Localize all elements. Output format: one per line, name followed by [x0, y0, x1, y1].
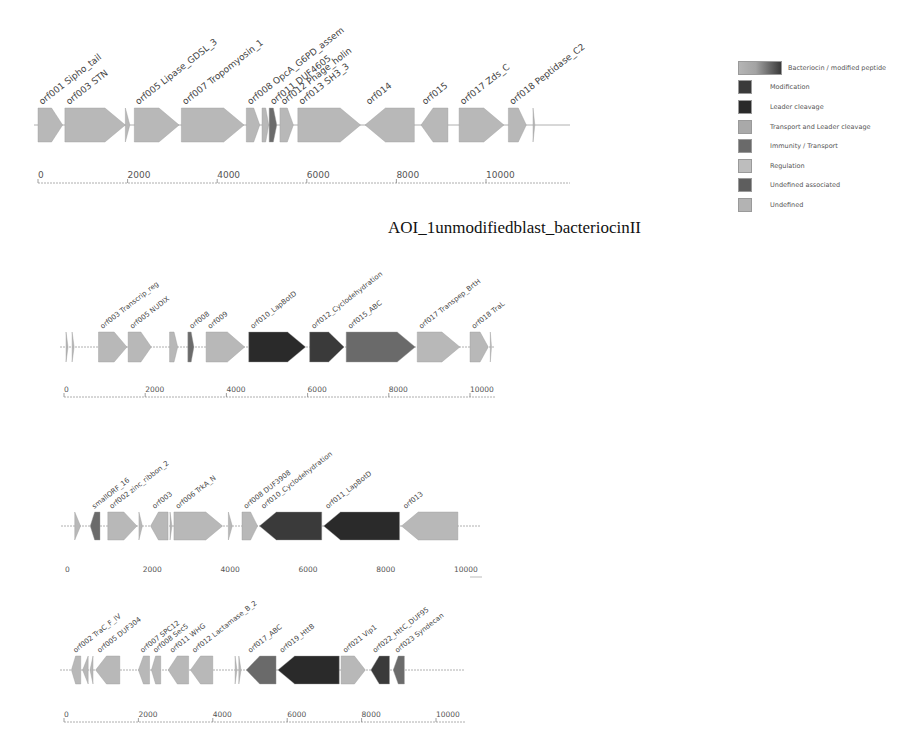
legend-swatch	[738, 120, 752, 134]
axis-tick-label: 2000	[138, 710, 157, 719]
gene-arrow	[71, 656, 80, 684]
gene-arrow	[470, 332, 488, 362]
legend-item: Undefined	[738, 195, 906, 215]
gene-arrow	[228, 512, 232, 540]
gene-label: orf005 DUF304	[96, 615, 143, 654]
gene-arrow	[262, 108, 269, 142]
gene-arrow	[249, 332, 306, 362]
axis-tick-label: 10000	[486, 170, 515, 180]
gene-arrow	[138, 656, 149, 684]
gene-label: orf009	[206, 310, 229, 330]
gene-arrow	[393, 656, 404, 684]
gene-arrow	[190, 656, 212, 684]
cluster-panel-1: orf001 Sipho_tailorf003 STNorf005 Lipase…	[34, 25, 587, 183]
gene-arrow	[246, 108, 259, 142]
cluster-title: AOI_1unmodifiedblast_bacteriocinII	[388, 218, 641, 238]
gene-arrow	[235, 656, 237, 684]
legend-label: Bacteriocin / modified peptide	[788, 64, 886, 72]
axis-tick-label: 2000	[128, 170, 151, 180]
axis-tick-label: 2000	[143, 565, 162, 574]
gene-arrow	[75, 512, 81, 540]
gene-arrow	[151, 656, 160, 684]
gene-arrow	[365, 108, 414, 142]
gene-arrow	[371, 656, 390, 684]
legend-swatch	[738, 178, 752, 192]
axis-tick-label: 10000	[436, 710, 460, 719]
gene-label: orf018 TraL	[470, 300, 506, 331]
legend-item: Undefined associated	[738, 176, 906, 196]
legend-item: Leader cleavage	[738, 97, 906, 117]
gene-arrow	[246, 656, 276, 684]
gene-arrow	[206, 332, 245, 362]
legend-label: Leader cleavage	[770, 103, 824, 111]
gene-arrow	[346, 332, 415, 362]
gene-arrow	[139, 512, 143, 540]
gene-arrow	[66, 332, 68, 362]
gene-arrow	[533, 108, 535, 142]
gene-arrow	[151, 512, 169, 540]
gene-arrow	[99, 332, 127, 362]
legend-item: Immunity / Transport	[738, 136, 906, 156]
gene-arrow	[490, 332, 491, 362]
gene-arrow	[278, 656, 339, 684]
gene-label: orf019_HttB	[278, 622, 316, 654]
axis-tick-label: 4000	[226, 385, 245, 394]
gene-arrow	[260, 512, 322, 540]
gene-label: orf006 TrkA_N	[174, 474, 217, 510]
gene-arrow	[298, 108, 361, 142]
legend: Bacteriocin / modified peptide Modificat…	[738, 58, 906, 215]
legend-swatch	[738, 198, 752, 212]
gene-arrow	[108, 512, 137, 540]
legend-swatch	[738, 159, 752, 173]
axis-tick-label: 0	[64, 710, 69, 719]
gene-label: orf017 Zds_C	[458, 62, 511, 107]
axis-tick-label: 6000	[287, 710, 306, 719]
axis-tick-label: 6000	[298, 565, 317, 574]
axis-tick-label: 10000	[470, 385, 494, 394]
legend-label: Modification	[770, 83, 810, 91]
axis-tick-label: 8000	[389, 385, 408, 394]
gene-arrow	[459, 108, 504, 142]
legend-item: Regulation	[738, 156, 906, 176]
gene-arrow	[421, 108, 448, 142]
legend-swatch	[738, 139, 752, 153]
legend-item: Transport and Leader cleavage	[738, 117, 906, 137]
gene-arrow	[242, 512, 258, 540]
gene-arrow	[239, 656, 241, 684]
axis-tick-label: 0	[65, 565, 70, 574]
gene-arrow	[83, 656, 89, 684]
gene-label: orf018 Peptidase_C2	[507, 42, 586, 107]
gene-arrow	[508, 108, 526, 142]
gene-arrow	[310, 332, 345, 362]
legend-item: Bacteriocin / modified peptide	[738, 58, 906, 78]
gene-arrow	[181, 108, 244, 142]
legend-swatch	[738, 100, 752, 114]
gene-arrow	[324, 512, 400, 540]
legend-label: Immunity / Transport	[770, 142, 838, 150]
gene-arrow	[90, 512, 100, 540]
gene-arrow	[128, 332, 151, 362]
gene-label: orf014	[364, 80, 394, 106]
axis-tick-label: 6000	[307, 170, 330, 180]
axis-tick-label: 2000	[145, 385, 164, 394]
axis-tick-label: 8000	[396, 170, 419, 180]
gene-arrow	[65, 108, 125, 142]
gene-label: orf003	[151, 490, 174, 510]
gene-label: orf010_Cyclodehydration	[260, 450, 334, 510]
axis-tick-label: 6000	[308, 385, 327, 394]
gene-arrow	[170, 512, 172, 540]
gene-arrow	[401, 512, 457, 540]
gene-arrow	[72, 332, 74, 362]
legend-label: Undefined	[770, 201, 803, 209]
gene-arrow	[188, 332, 194, 362]
cluster-panel-4: orf002 TraC_F_IVorf005 DUF304orf007 SPC1…	[60, 599, 465, 722]
gene-arrow	[417, 332, 460, 362]
legend-label: Regulation	[770, 162, 805, 170]
gene-label: orf011_LapBotD	[324, 470, 373, 511]
legend-label: Undefined associated	[770, 181, 840, 189]
legend-swatch	[738, 61, 782, 75]
gene-arrow	[341, 656, 365, 684]
gene-arrow	[168, 656, 188, 684]
gene-arrow	[269, 108, 277, 142]
gene-label: orf010_LapBotD	[249, 290, 298, 331]
